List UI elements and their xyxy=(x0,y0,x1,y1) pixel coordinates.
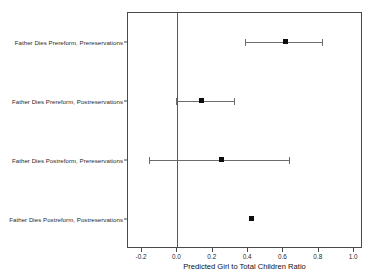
x-axis-tick-label: 0.6 xyxy=(278,253,287,260)
x-axis-title: Predicted Girl to Total Children Ratio xyxy=(127,262,362,271)
estimate-point xyxy=(219,157,224,162)
x-axis-tick-label: 0.8 xyxy=(313,253,322,260)
x-axis-tick-label: 0.0 xyxy=(172,253,181,260)
x-axis-tick-label: -0.2 xyxy=(136,253,147,260)
x-axis-tick-label: 0.2 xyxy=(207,253,216,260)
y-axis-category-label: Father Dies Postreform, Postreservations xyxy=(9,215,123,222)
x-axis-tick xyxy=(353,248,354,252)
confidence-interval-cap xyxy=(234,98,235,105)
y-axis-category-label: Father Dies Prereform, Postreservations xyxy=(12,97,123,104)
x-axis-tick xyxy=(282,248,283,252)
estimate-point xyxy=(249,216,254,221)
estimate-point xyxy=(199,98,204,103)
x-axis-tick xyxy=(176,248,177,252)
x-axis-tick xyxy=(318,248,319,252)
y-axis-category-label: Father Dies Postreform, Prereservations xyxy=(12,156,123,163)
estimate-row xyxy=(128,36,361,50)
confidence-interval-cap xyxy=(322,39,323,46)
coefficient-plot-figure: Father Dies Prereform, PrereservationsFa… xyxy=(0,0,371,276)
estimate-row xyxy=(128,213,361,227)
estimate-row xyxy=(128,154,361,168)
x-axis-tick xyxy=(212,248,213,252)
confidence-interval-bar xyxy=(176,101,234,102)
x-axis-tick xyxy=(141,248,142,252)
y-axis-category-label: Father Dies Prereform, Prereservations xyxy=(15,38,123,45)
confidence-interval-cap xyxy=(245,39,246,46)
confidence-interval-cap xyxy=(289,157,290,164)
x-axis-tick-label: 0.4 xyxy=(243,253,252,260)
x-axis-tick-label: 1.0 xyxy=(349,253,358,260)
estimate-point xyxy=(283,39,288,44)
estimate-row xyxy=(128,95,361,109)
plot-area xyxy=(127,12,362,248)
x-axis-tick xyxy=(247,248,248,252)
plot-inner xyxy=(128,13,361,247)
confidence-interval-cap xyxy=(176,98,177,105)
confidence-interval-cap xyxy=(149,157,150,164)
